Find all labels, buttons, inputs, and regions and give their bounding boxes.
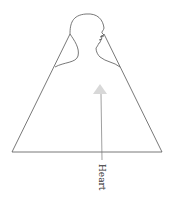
arrow-shaft [101,94,102,160]
triangle-outline [12,34,162,152]
heart-label: Heart [97,164,107,191]
diagram-canvas: Heart [0,0,171,203]
head-outline [70,14,120,67]
arrow-head [93,84,107,94]
left-shoulder-curve [55,34,78,67]
